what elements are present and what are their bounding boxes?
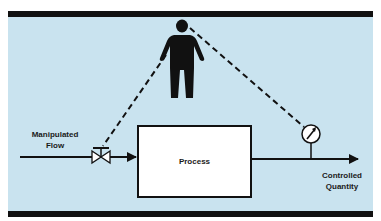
person-icon	[160, 20, 205, 99]
process-label: Process	[179, 157, 210, 166]
gauge-to-operator-dashed-line	[190, 28, 304, 127]
output-label-line-2: Quantity	[312, 181, 372, 192]
gauge-icon	[302, 125, 320, 159]
manipulated-flow-label: Manipulated Flow	[20, 129, 90, 151]
output-label-line-1: Controlled	[312, 170, 372, 181]
input-label-line-1: Manipulated	[20, 129, 90, 140]
process-box: Process	[137, 125, 252, 198]
input-label-line-2: Flow	[20, 140, 90, 151]
controlled-quantity-label: Controlled Quantity	[312, 170, 372, 192]
valve-icon	[92, 148, 110, 163]
